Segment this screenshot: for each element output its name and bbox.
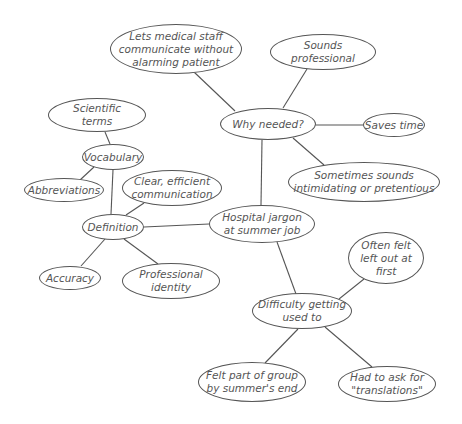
node-label: Lets medical staff communicate without a… xyxy=(119,30,233,69)
node-label: Hospital jargon at summer job xyxy=(222,211,302,237)
mind-map-canvas: Lets medical staff communicate without a… xyxy=(0,0,462,424)
edge-definition-hospital_jargon xyxy=(144,224,209,227)
node-label: Definition xyxy=(87,221,138,234)
node-lets-medical: Lets medical staff communicate without a… xyxy=(110,24,242,74)
node-label: Sometimes sounds intimidating or pretent… xyxy=(294,169,435,195)
edge-difficulty-felt_part xyxy=(265,329,298,363)
node-label: Often felt left out at first xyxy=(360,239,412,278)
edge-why_needed-lets_medical xyxy=(194,72,235,111)
node-abbreviations: Abbreviations xyxy=(24,178,104,202)
node-left-out: Often felt left out at first xyxy=(348,232,424,284)
node-scientific-terms: Scientific terms xyxy=(48,98,146,132)
edge-definition-accuracy xyxy=(81,239,105,266)
node-accuracy: Accuracy xyxy=(39,266,101,290)
edge-vocabulary-definition xyxy=(111,170,113,214)
node-label: Professional identity xyxy=(139,268,203,294)
edge-vocabulary-abbreviations xyxy=(80,167,94,180)
node-label: Felt part of group by summer's end xyxy=(206,369,298,395)
node-intimidating: Sometimes sounds intimidating or pretent… xyxy=(288,162,440,202)
node-label: Why needed? xyxy=(232,118,304,131)
node-label: Sounds professional xyxy=(291,39,355,65)
node-label: Vocabulary xyxy=(84,151,142,164)
node-hospital-jargon: Hospital jargon at summer job xyxy=(209,205,315,243)
node-label: Clear, efficient communication xyxy=(131,175,212,201)
edge-why_needed-hospital_jargon xyxy=(261,140,262,205)
edge-difficulty-translations xyxy=(325,327,372,367)
edge-definition-clear_efficient xyxy=(126,203,144,215)
node-vocabulary: Vocabulary xyxy=(82,144,144,170)
node-translations: Had to ask for "translations" xyxy=(338,366,436,402)
node-professional-identity: Professional identity xyxy=(122,263,220,299)
edge-difficulty-left_out xyxy=(339,279,364,299)
node-sounds-professional: Sounds professional xyxy=(270,34,376,70)
edge-why_needed-sounds_professional xyxy=(283,69,307,108)
node-label: Abbreviations xyxy=(28,184,100,197)
edge-hospital_jargon-difficulty xyxy=(277,242,296,294)
node-label: Saves time xyxy=(365,119,423,132)
edge-vocabulary-scientific_terms xyxy=(105,132,110,144)
edge-definition-professional_identity xyxy=(124,239,158,264)
node-clear-efficient: Clear, efficient communication xyxy=(122,170,222,206)
node-label: Accuracy xyxy=(46,272,94,285)
node-label: Scientific terms xyxy=(73,102,121,128)
node-saves-time: Saves time xyxy=(363,113,425,137)
edge-why_needed-intimidating xyxy=(293,138,324,165)
node-why-needed: Why needed? xyxy=(220,108,316,140)
node-label: Had to ask for "translations" xyxy=(350,371,424,397)
node-label: Difficulty getting used to xyxy=(258,298,346,324)
node-definition: Definition xyxy=(82,214,144,240)
node-felt-part: Felt part of group by summer's end xyxy=(198,362,306,402)
node-difficulty: Difficulty getting used to xyxy=(252,293,352,329)
